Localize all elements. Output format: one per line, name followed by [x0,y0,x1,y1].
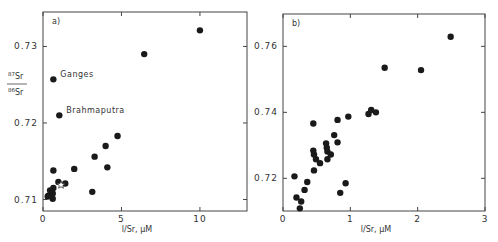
data-point [342,180,348,186]
data-point [141,51,147,57]
data-point [381,65,387,71]
data-point [71,166,77,172]
x-tick-label: 5 [118,214,125,224]
data-point [345,113,351,119]
data-point [373,109,379,115]
data-point [317,160,323,166]
data-point [324,156,330,162]
data-point [197,27,203,33]
data-point [91,153,97,159]
data-point [337,190,343,196]
x-tick-label: 10 [193,214,206,224]
data-point [298,198,304,204]
data-point [304,179,310,185]
plot-frame [283,14,485,211]
data-point [311,167,317,173]
y-tick-label: 0.74 [254,107,278,117]
svg-text:86Sr: 86Sr [8,87,24,97]
data-point [104,164,110,170]
data-point [297,205,303,211]
x-tick-label: 0 [40,214,47,224]
data-point [301,187,307,193]
data-point [418,67,424,73]
data-point [114,133,120,139]
data-point [291,173,297,179]
data-point [334,117,340,123]
data-point [50,76,56,82]
panel-label: a) [52,17,60,26]
x-tick-label: 0 [280,214,287,224]
data-point [331,132,337,138]
y-axis-label: 87Sr86Sr [7,71,27,97]
chart-canvas: 05100.710.720.73a)l/Sr, μM87Sr86SrGanges… [0,0,498,242]
point-annotation: Ganges [60,70,93,79]
panel-label: b) [292,19,300,28]
data-point [102,143,108,149]
y-tick-label: 0.72 [254,173,278,183]
data-point [56,112,62,118]
panel-a: 05100.710.720.73a)l/Sr, μM87Sr86SrGanges… [7,12,247,234]
point-annotation: Brahmaputra [66,106,124,115]
panel-b: 01230.720.740.76b)l/Sr, μM [254,14,488,234]
data-point [334,139,340,145]
x-tick-label: 3 [482,214,489,224]
x-tick-label: 1 [347,214,354,224]
x-axis-label: l/Sr, μM [122,225,152,234]
y-tick-label: 0.73 [14,41,38,51]
y-tick-label: 0.72 [14,118,38,128]
y-tick-label: 0.71 [14,195,38,205]
svg-text:87Sr: 87Sr [8,71,24,81]
data-point [50,167,56,173]
x-axis-label: l/Sr, μM [361,225,391,234]
data-point [50,190,56,196]
data-point [447,34,453,40]
data-point [89,189,95,195]
data-point [310,120,316,126]
y-tick-label: 0.76 [254,41,278,51]
x-tick-label: 2 [414,214,421,224]
